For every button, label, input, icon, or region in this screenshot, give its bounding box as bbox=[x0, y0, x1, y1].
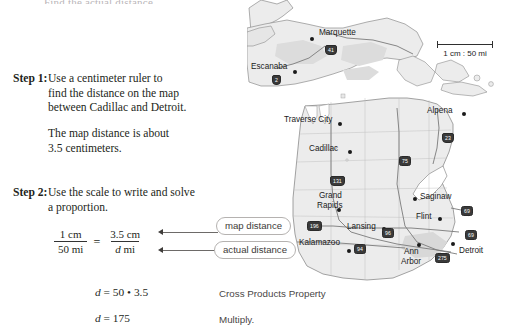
proportion-equation: 1 cm 50 mi = 3.5 cm d mi bbox=[54, 228, 144, 255]
highway-shield-94: 94 bbox=[354, 244, 366, 254]
unit-mi: mi bbox=[121, 243, 135, 255]
city-label-traverse-city: Traverse City bbox=[284, 115, 332, 124]
step-1-note-label bbox=[0, 127, 48, 156]
highway-shield-2: 2 bbox=[272, 75, 281, 85]
highway-shield-69-east: 69 bbox=[465, 230, 477, 240]
city-label-grand: Grand bbox=[319, 191, 342, 200]
highway-shield-75: 75 bbox=[399, 156, 411, 166]
fraction-right-denominator: d mi bbox=[111, 241, 139, 255]
worked-example-page: Find the actual distance. bbox=[0, 0, 511, 334]
city-label-escanaba: Escanaba bbox=[251, 62, 287, 71]
step-2-line-2: a proportion. bbox=[48, 201, 195, 216]
step-1-line-2: find the distance on the map bbox=[48, 87, 186, 102]
equation-2-expression: = 175 bbox=[101, 312, 130, 324]
scale-bar-line bbox=[437, 44, 493, 45]
step-1-line-3: between Cadillac and Detroit. bbox=[48, 101, 186, 116]
highway-shield-275: 275 bbox=[435, 253, 450, 263]
step-1-row: Step 1: Use a centimeter ruler to find t… bbox=[0, 72, 186, 116]
step-1-body: Use a centimeter ruler to find the dista… bbox=[48, 72, 186, 116]
equals-sign: = bbox=[93, 234, 100, 250]
equation-1-reason: Cross Products Property bbox=[219, 288, 326, 299]
fraction-left-denominator: 50 mi bbox=[54, 241, 87, 255]
city-label-cadillac: Cadillac bbox=[309, 144, 338, 153]
equation-1-expression: = 50 • 3.5 bbox=[101, 286, 148, 298]
callout-actual-distance: actual distance bbox=[214, 241, 296, 259]
scale-bar-tick-left bbox=[437, 41, 438, 48]
city-label-ann: Ann bbox=[404, 247, 419, 256]
highway-shield-41: 41 bbox=[325, 45, 337, 55]
step-1-note-line-1: The map distance is about bbox=[48, 127, 169, 142]
callout-leader-actual-distance bbox=[163, 250, 215, 251]
step-2-body: Use the scale to write and solve a propo… bbox=[48, 186, 195, 215]
scale-bar-label: 1 cm : 50 mi bbox=[437, 49, 493, 58]
equation-row-1: d = 50 • 3.5 bbox=[95, 286, 148, 298]
callout-leader-map-distance bbox=[163, 232, 218, 233]
fraction-right-numerator: 3.5 cm bbox=[106, 228, 144, 241]
city-label-arbor: Arbor bbox=[401, 257, 421, 266]
callout-map-distance: map distance bbox=[216, 217, 291, 235]
equation-row-2: d = 175 bbox=[95, 312, 130, 324]
city-label-flint: Flint bbox=[416, 212, 431, 221]
highway-shield-69-saginaw: 69 bbox=[461, 206, 473, 216]
step-1-label: Step 1: bbox=[0, 72, 48, 116]
city-label-rapids: Rapids bbox=[317, 201, 343, 210]
city-label-saginaw: Saginaw bbox=[420, 192, 451, 201]
city-label-lansing: Lansing bbox=[347, 222, 376, 231]
city-label-detroit: Detroit bbox=[459, 246, 483, 255]
highway-shield-96: 96 bbox=[382, 228, 394, 238]
fraction-right: 3.5 cm d mi bbox=[106, 228, 144, 255]
step-1-note-body: The map distance is about 3.5 centimeter… bbox=[48, 127, 169, 156]
step-1-line-1: Use a centimeter ruler to bbox=[48, 72, 186, 87]
highway-shield-196: 196 bbox=[307, 221, 322, 231]
fraction-left: 1 cm 50 mi bbox=[54, 228, 87, 255]
scale-bar-tick-right bbox=[492, 41, 493, 48]
step-1-note-line-2: 3.5 centimeters. bbox=[48, 142, 169, 157]
city-label-marquette: Marquette bbox=[319, 28, 356, 37]
city-label-kalamazoo: Kalamazoo bbox=[299, 238, 340, 247]
highway-shield-131: 131 bbox=[330, 176, 345, 186]
city-label-alpena: Alpena bbox=[427, 106, 453, 115]
step-2-row: Step 2: Use the scale to write and solve… bbox=[0, 186, 195, 215]
equation-2-reason: Multiply. bbox=[219, 314, 254, 325]
highway-shield-23: 23 bbox=[442, 133, 454, 143]
step-1-note-row: The map distance is about 3.5 centimeter… bbox=[0, 127, 169, 156]
step-2-line-1: Use the scale to write and solve bbox=[48, 186, 195, 201]
step-2-label: Step 2: bbox=[0, 186, 48, 215]
fraction-left-numerator: 1 cm bbox=[56, 228, 86, 241]
